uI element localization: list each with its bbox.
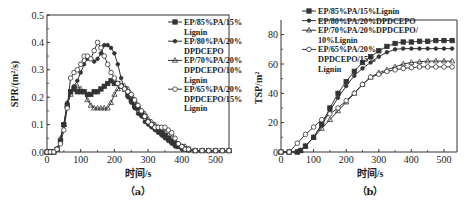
- circle-marker: [311, 125, 316, 130]
- circle-marker: [336, 106, 341, 111]
- legend-a: EP/85%PA/15%LigninEP/80%PA/20%DPDCEPOEP/…: [168, 18, 242, 113]
- legend-dot-icon: [173, 39, 177, 43]
- dot-marker: [385, 50, 389, 54]
- dot-marker: [393, 48, 397, 52]
- legend-item: EP/70%PA/20%DPDCEPO/10%Lignin: [168, 56, 242, 84]
- circle-marker: [62, 128, 67, 133]
- x-axis-title-a: 时间/s: [125, 167, 152, 179]
- legend-item: EP/85%PA/15%Lignin: [168, 18, 242, 37]
- x-tick-label: 400: [174, 154, 189, 165]
- circle-marker: [360, 82, 365, 87]
- dot-marker: [377, 55, 381, 59]
- circle-marker: [55, 147, 60, 152]
- y-axis-b: 020406080: [268, 29, 284, 157]
- x-axis-title-b: 时间/s: [357, 167, 384, 179]
- circle-marker: [417, 65, 422, 70]
- circle-marker: [99, 46, 104, 51]
- y-tick-label: 0.1: [32, 119, 45, 130]
- square-marker: [352, 69, 356, 73]
- square-marker: [442, 38, 446, 42]
- circle-marker: [385, 69, 390, 74]
- circle-marker: [319, 117, 324, 122]
- circle-marker: [279, 150, 284, 155]
- legend-label: EP/70%PA/20%: [184, 56, 242, 65]
- square-marker: [401, 40, 405, 44]
- y-axis-title-b: TSP/m²: [253, 72, 264, 104]
- legend-dot-icon: [307, 19, 311, 23]
- dot-marker: [401, 47, 405, 51]
- dot-marker: [113, 52, 117, 56]
- circle-marker: [376, 72, 381, 77]
- caption-b: （b）: [357, 185, 384, 197]
- dot-marker: [344, 84, 348, 88]
- legend-label: DPDCEPO/15%: [184, 95, 242, 104]
- circle-marker: [328, 112, 333, 117]
- x-tick-label: 200: [339, 154, 354, 165]
- circle-marker: [295, 141, 300, 146]
- legend-item: EP/65%PA/20%DPDCEPO/15%Lignin: [168, 85, 242, 113]
- dot-marker: [106, 43, 110, 47]
- legend-label: EP/80%PA/20%: [184, 37, 242, 46]
- y-tick-label: 0.3: [32, 64, 45, 75]
- square-marker: [377, 49, 381, 53]
- circle-marker: [65, 106, 70, 111]
- circle-marker: [409, 65, 414, 70]
- circle-marker: [112, 76, 117, 81]
- circle-marker: [105, 62, 110, 67]
- series-line: [279, 65, 455, 155]
- dot-marker: [336, 96, 340, 100]
- legend-circle-icon: [173, 87, 178, 92]
- dot-marker: [410, 47, 414, 51]
- dot-marker: [353, 74, 357, 78]
- x-tick-label: 400: [404, 154, 419, 165]
- legend-label: DPDCEPO: [184, 47, 224, 56]
- triangle-marker: [433, 58, 438, 63]
- circle-marker: [401, 66, 406, 71]
- x-tick-label: 500: [208, 154, 223, 165]
- circle-marker: [58, 141, 63, 146]
- dot-marker: [109, 46, 113, 50]
- circle-marker: [169, 131, 174, 136]
- circle-marker: [129, 92, 134, 97]
- legend-item: EP/65%PA/20%DPDCEPO/15%Lignin: [302, 45, 376, 73]
- circle-marker: [132, 98, 137, 103]
- legend-label: DPDCEPO/10%: [184, 66, 242, 75]
- circle-marker: [102, 54, 107, 59]
- caption-a: （a）: [125, 185, 151, 197]
- legend-label: EP/85%PA/15%Lignin: [318, 7, 400, 16]
- circle-marker: [136, 103, 141, 108]
- x-tick-label: 300: [141, 154, 156, 165]
- circle-marker: [193, 148, 198, 153]
- legend-label: 10%Lignin: [318, 36, 358, 45]
- y-tick-label: 0.0: [32, 147, 45, 158]
- x-tick-label: 300: [371, 154, 386, 165]
- legend-item: EP/85%PA/15%Lignin: [302, 7, 400, 16]
- dot-marker: [426, 47, 430, 51]
- circle-marker: [68, 76, 73, 81]
- circle-marker: [89, 57, 94, 62]
- x-tick-label: 0: [45, 154, 50, 165]
- series-path: [281, 67, 452, 152]
- dot-marker: [442, 47, 446, 51]
- dot-marker: [418, 47, 422, 51]
- legend-label: Lignin: [318, 65, 342, 74]
- panel-b-tsp-chart: 020406080 0100200300400500 EP/85%PA/15%L…: [253, 7, 457, 197]
- y-tick-label: 0.4: [32, 37, 45, 48]
- circle-marker: [186, 147, 191, 152]
- legend-item: EP/80%PA/20%DPDCEPO: [168, 37, 242, 56]
- legend-item: EP/80%PA/20%DPDCEPO: [302, 17, 416, 26]
- y-tick-label: 60: [268, 59, 278, 70]
- circle-marker: [173, 136, 178, 141]
- circle-marker: [95, 40, 100, 45]
- legend-label: EP/85%PA/15%: [184, 18, 242, 27]
- circle-marker: [368, 75, 373, 80]
- figure: 0.00.10.20.30.40.5 0100200300400500 EP/8…: [0, 0, 468, 209]
- square-marker: [450, 38, 454, 42]
- square-marker: [344, 79, 348, 83]
- legend-square-icon: [173, 20, 177, 24]
- dot-marker: [76, 79, 80, 83]
- circle-marker: [434, 65, 439, 70]
- circle-marker: [425, 65, 430, 70]
- circle-marker: [227, 148, 232, 153]
- circle-marker: [303, 132, 308, 137]
